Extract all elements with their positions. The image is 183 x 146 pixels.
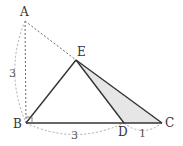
length-label-ab: 3: [9, 67, 16, 80]
dashed-segment-ae: [25, 21, 76, 60]
point-label-c: C: [165, 116, 174, 130]
length-label-bd: 3: [71, 129, 78, 142]
segment-be: [26, 60, 76, 123]
point-label-d: D: [118, 125, 128, 139]
dashed-segment-ab: [25, 21, 26, 123]
point-label-a: A: [19, 5, 29, 19]
dimension-arc-ab: [15, 21, 26, 123]
length-label-dc: 1: [139, 127, 146, 140]
point-label-e: E: [77, 45, 86, 59]
point-label-b: B: [13, 117, 22, 131]
geometry-diagram: A E B D C 3 3 1: [0, 0, 183, 146]
